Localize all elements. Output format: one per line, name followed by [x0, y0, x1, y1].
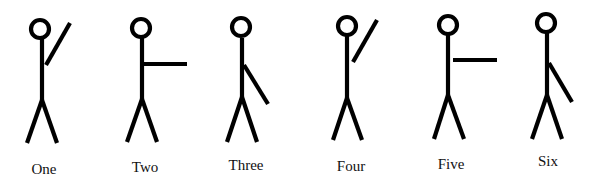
left-leg: [227, 97, 242, 142]
figure-label-three: Three: [229, 158, 264, 173]
right-leg: [347, 98, 362, 140]
right-leg: [142, 99, 157, 142]
arm-lowered-diagonal: [549, 63, 572, 102]
stick-figure-three: [227, 18, 268, 142]
left-leg: [532, 95, 547, 139]
head-icon: [232, 18, 250, 36]
stick-figure-one: [27, 20, 70, 143]
figure-label-two: Two: [132, 160, 158, 175]
head-icon: [132, 19, 150, 37]
head-icon: [31, 20, 49, 38]
stick-figure-two: [127, 19, 187, 142]
figure-label-four: Four: [337, 159, 365, 174]
arm-lowered-diagonal: [244, 65, 268, 104]
left-leg: [434, 95, 448, 139]
right-leg: [42, 100, 57, 143]
stick-figure-five: [434, 16, 497, 139]
figure-label-one: One: [32, 162, 57, 177]
figure-label-six: Six: [538, 154, 558, 169]
right-leg: [547, 95, 562, 139]
left-leg: [27, 100, 42, 143]
head-icon: [537, 14, 555, 32]
figure-label-five: Five: [438, 157, 465, 172]
left-leg: [333, 98, 347, 140]
right-leg: [448, 95, 464, 139]
stick-figure-six: [532, 14, 572, 139]
head-icon: [338, 17, 356, 35]
stick-figures-diagram: [0, 0, 595, 190]
stick-figure-four: [333, 17, 377, 140]
right-leg: [242, 97, 257, 142]
head-icon: [439, 16, 457, 34]
left-leg: [127, 99, 142, 142]
